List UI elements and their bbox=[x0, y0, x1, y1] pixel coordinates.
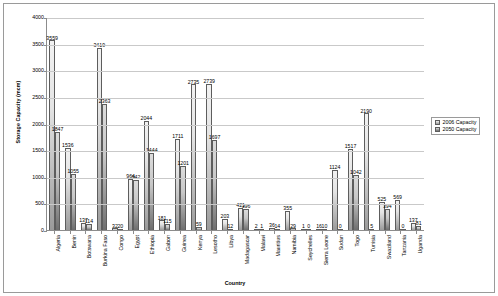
bar-value-label: 1 bbox=[260, 224, 263, 229]
bar-2050: 2363 bbox=[102, 104, 107, 230]
x-tick-label-cell: Malawi bbox=[251, 235, 267, 279]
y-tick-mark bbox=[44, 71, 47, 72]
y-tick-label: 0 bbox=[18, 228, 44, 233]
x-tick-label: Botswana bbox=[88, 235, 93, 258]
y-tick-label: 2000 bbox=[18, 122, 44, 127]
bar-value-label: 12 bbox=[227, 224, 233, 229]
legend-swatch-2006-icon bbox=[435, 120, 440, 125]
x-tick-label-cell: Kenya bbox=[188, 235, 204, 279]
x-tick-label-cell: Benin bbox=[62, 235, 78, 279]
bar-value-label: 20 bbox=[117, 224, 123, 229]
x-tick-label-cell: Ethiopia bbox=[141, 235, 157, 279]
y-tick-label: 3500 bbox=[18, 42, 44, 47]
y-tick-label: 1500 bbox=[18, 148, 44, 153]
y-tick-label: 3000 bbox=[18, 69, 44, 74]
y-tick-mark bbox=[44, 151, 47, 152]
y-tick-mark bbox=[44, 125, 47, 126]
x-tick-label: Malawi bbox=[261, 235, 266, 251]
bar-value-label: 203 bbox=[221, 214, 230, 219]
bar-2050: 114 bbox=[86, 224, 91, 230]
chart-screenshot: Storage Capacity (mcm) 05001000150020002… bbox=[0, 0, 498, 296]
bar-2050: 1055 bbox=[71, 174, 76, 230]
x-tick-label-cell: Burkina Faso bbox=[93, 235, 109, 279]
gridline bbox=[47, 71, 424, 72]
x-tick-label: Seychelles bbox=[308, 235, 313, 261]
bar-value-label: 2739 bbox=[203, 79, 215, 84]
x-tick-label-cell: Tunisia bbox=[361, 235, 377, 279]
bar-value-label: 2 bbox=[255, 224, 258, 229]
x-tick-label-cell: Libya bbox=[219, 235, 235, 279]
x-tick-label-cell: Sudan bbox=[330, 235, 346, 279]
x-tick-label: Burkina Faso bbox=[103, 235, 108, 266]
bar-2050: 115 bbox=[165, 224, 170, 230]
bar-value-label: 525 bbox=[378, 197, 387, 202]
gridline bbox=[47, 98, 424, 99]
x-tick-label-cell: Guinea bbox=[172, 235, 188, 279]
legend-item-2006: 2006 Capacity bbox=[435, 120, 476, 125]
bar-value-label: 1124 bbox=[329, 165, 340, 170]
x-tick-label-cell: Seychelles bbox=[298, 235, 314, 279]
legend-label-2006: 2006 Capacity bbox=[443, 120, 477, 125]
x-tick-label: Algeria bbox=[56, 235, 61, 252]
gridline bbox=[47, 151, 424, 152]
bar-2050: 396 bbox=[243, 209, 248, 230]
x-tick-label: Tunisia bbox=[371, 235, 376, 252]
bar-value-label: 1201 bbox=[177, 161, 189, 166]
bar-2050: 12 bbox=[228, 229, 233, 230]
x-tick-label: Sudan bbox=[340, 235, 345, 250]
bar-value-label: 2735 bbox=[188, 80, 200, 85]
bar-2050: 14 bbox=[275, 229, 280, 230]
bar-2050: 20 bbox=[118, 229, 123, 230]
x-tick-label-cell: Madagascar bbox=[235, 235, 251, 279]
legend-swatch-2050-icon bbox=[435, 127, 440, 132]
bar-2050: 29 bbox=[290, 228, 295, 230]
bar-value-label: 0 bbox=[339, 224, 342, 229]
bar-value-label: 59 bbox=[196, 222, 202, 227]
gridline bbox=[47, 204, 424, 205]
x-tick-label: Swaziland bbox=[387, 235, 392, 259]
bar-2050: 0 bbox=[400, 229, 405, 230]
y-tick-mark bbox=[44, 98, 47, 99]
bar-value-label: 1517 bbox=[345, 144, 357, 149]
bar-value-label: 14 bbox=[274, 224, 280, 229]
bar-2050: 1444 bbox=[149, 153, 154, 230]
x-tick-label: Lesotho bbox=[214, 235, 219, 254]
bar-value-label: 1847 bbox=[52, 127, 64, 132]
legend-label-2050: 2050 Capacity bbox=[443, 127, 477, 132]
x-tick-label-cell: Congo bbox=[109, 235, 125, 279]
bar-2050: 1201 bbox=[180, 166, 185, 230]
bar-value-label: 569 bbox=[393, 195, 402, 200]
x-tick-label-cell: Tanzania bbox=[393, 235, 409, 279]
bar-2050: 1847 bbox=[55, 132, 60, 230]
x-tick-label-cell: Namibia bbox=[282, 235, 298, 279]
x-tick-label: Ethiopia bbox=[151, 235, 156, 254]
bar-value-label: 3559 bbox=[46, 36, 58, 41]
bar-value-label: 1697 bbox=[209, 135, 221, 140]
x-tick-label: Mauritius bbox=[277, 235, 282, 257]
bar-2050: 1042 bbox=[353, 175, 358, 230]
x-tick-label: Namibia bbox=[292, 235, 297, 254]
x-tick-label-cell: Lesotho bbox=[204, 235, 220, 279]
bar-2006: 2190 bbox=[364, 113, 369, 230]
plot-area: 3559184715361055137114341923633220964942… bbox=[46, 18, 424, 231]
bar-value-label: 1 bbox=[302, 224, 305, 229]
bar-value-label: 2190 bbox=[360, 109, 372, 114]
legend-item-2050: 2050 Capacity bbox=[435, 127, 476, 132]
x-tick-label: Congo bbox=[119, 235, 124, 251]
x-tick-label-cell: Uganda bbox=[408, 235, 424, 279]
bar-2050: 1697 bbox=[212, 140, 217, 230]
x-tick-label: Guinea bbox=[182, 235, 187, 252]
y-tick-mark bbox=[44, 178, 47, 179]
x-tick-label: Egypt bbox=[135, 235, 140, 249]
gridline bbox=[47, 178, 424, 179]
bar-value-label: 81 bbox=[416, 221, 422, 226]
x-tick-label: Gabon bbox=[166, 235, 171, 251]
bar-2006: 2735 bbox=[191, 84, 196, 230]
bar-value-label: 29 bbox=[290, 224, 296, 229]
bar-value-label: 0 bbox=[307, 224, 310, 229]
bar-value-label: 2363 bbox=[99, 99, 111, 104]
gridline bbox=[47, 45, 424, 46]
bar-2050: 0 bbox=[338, 229, 343, 230]
gridline bbox=[47, 125, 424, 126]
bar-value-label: 1055 bbox=[67, 169, 79, 174]
